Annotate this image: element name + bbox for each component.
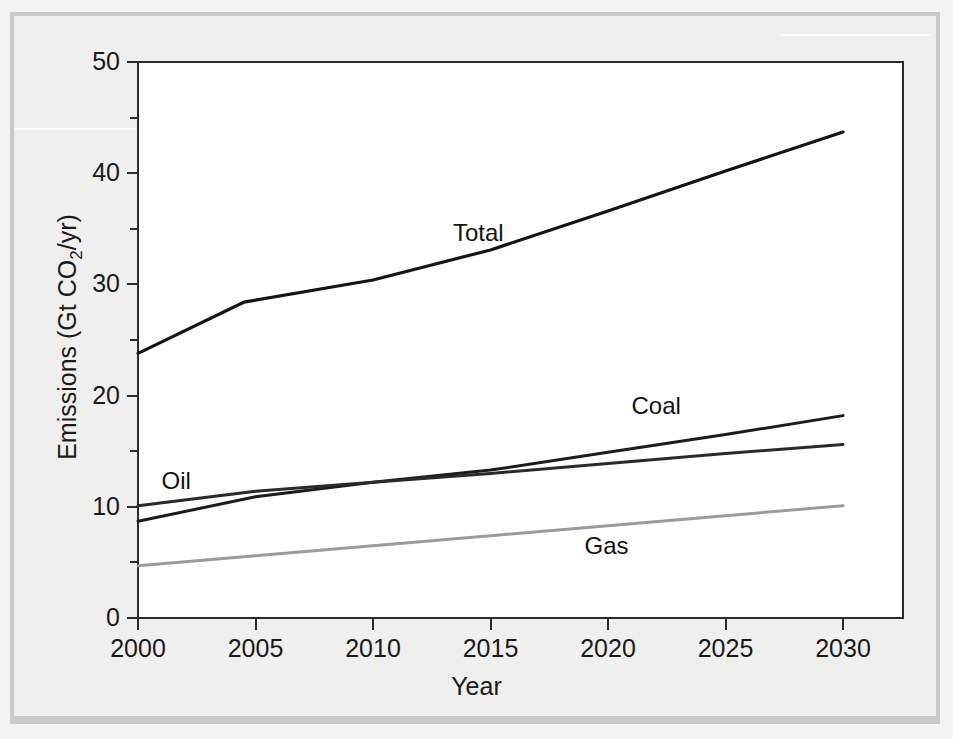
x-tick (842, 619, 844, 630)
scan-artifact (14, 128, 138, 130)
series-label-total: Total (453, 219, 504, 247)
x-tick (137, 619, 139, 630)
y-tick-minor (130, 450, 138, 452)
y-tick-label: 50 (60, 49, 120, 74)
top-spine (137, 61, 904, 63)
y-tick (127, 61, 138, 63)
series-label-coal: Coal (632, 392, 681, 420)
x-tick-label: 2030 (788, 636, 898, 661)
y-axis-title-subscript: 2 (67, 250, 86, 259)
y-tick (127, 172, 138, 174)
x-tick (255, 619, 257, 630)
y-tick-label: 0 (60, 605, 120, 630)
x-tick (725, 619, 727, 630)
x-tick-label: 2000 (83, 636, 193, 661)
x-axis-line (137, 617, 904, 619)
y-tick (127, 283, 138, 285)
right-spine (902, 61, 904, 619)
x-tick-label: 2020 (553, 636, 663, 661)
y-tick-minor (130, 228, 138, 230)
x-tick (372, 619, 374, 630)
y-axis-title-prefix: Emissions (Gt CO (53, 260, 81, 460)
scan-artifact (780, 34, 930, 36)
y-tick-minor (130, 117, 138, 119)
plot-area (138, 62, 903, 618)
x-tick-label: 2010 (318, 636, 428, 661)
x-tick (607, 619, 609, 630)
x-tick (490, 619, 492, 630)
y-axis-title-suffix: /yr) (53, 214, 81, 250)
series-label-gas: Gas (585, 532, 629, 560)
y-axis-title: Emissions (Gt CO2/yr) (53, 137, 87, 537)
y-tick (127, 395, 138, 397)
y-tick-minor (130, 339, 138, 341)
x-tick-label: 2025 (671, 636, 781, 661)
x-tick-label: 2015 (436, 636, 546, 661)
x-tick-label: 2005 (201, 636, 311, 661)
x-axis-title: Year (0, 672, 953, 701)
series-label-oil: Oil (162, 467, 191, 495)
figure-page: 01020304050 2000200520102015202020252030… (0, 0, 953, 739)
y-tick-minor (130, 561, 138, 563)
y-tick (127, 506, 138, 508)
